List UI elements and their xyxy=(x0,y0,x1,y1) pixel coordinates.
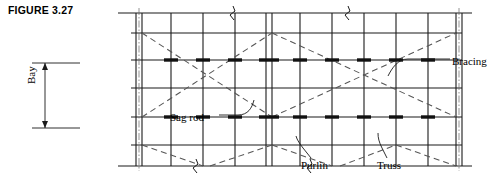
bracing-lines xyxy=(142,33,456,166)
roof-framing-diagram xyxy=(0,0,499,189)
bay-dimension xyxy=(32,63,80,128)
callout-bay: Bay xyxy=(26,66,37,84)
callout-sag-rod: Sag rod xyxy=(170,112,204,123)
callout-bracing: Bracing xyxy=(452,56,487,67)
bracing-line xyxy=(210,145,272,166)
bay-arrow-down-icon xyxy=(42,121,48,128)
callout-purlin: Purlin xyxy=(301,160,328,171)
callout-truss: Truss xyxy=(377,160,401,171)
bracing-line xyxy=(142,145,203,166)
leader-line-purlin xyxy=(296,136,311,158)
leader-lines xyxy=(219,59,450,158)
leader-line-sagrod xyxy=(219,100,254,115)
bay-arrow-up-icon xyxy=(42,63,48,70)
bracing-line xyxy=(396,145,456,166)
